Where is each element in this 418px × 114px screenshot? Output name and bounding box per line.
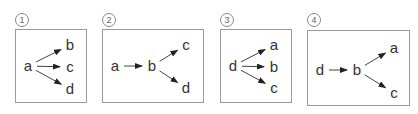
node-c: c <box>182 36 190 53</box>
node-c: c <box>66 58 74 75</box>
node-c: c <box>390 84 398 101</box>
node-d: d <box>229 57 237 74</box>
arrow-d-to-c <box>241 70 265 83</box>
arrow-a-to-c <box>37 66 60 67</box>
arrow-b-to-c <box>365 75 386 88</box>
node-a: a <box>111 57 120 74</box>
node-d: d <box>316 61 324 78</box>
node-b: b <box>353 61 361 78</box>
arrow-a-to-d <box>36 70 61 84</box>
node-d: d <box>182 79 190 96</box>
arrow-d-to-a <box>241 50 265 62</box>
arrows <box>36 49 386 87</box>
node-b: b <box>66 36 74 53</box>
diagram-canvas: abcdabcddabcdbac <box>0 0 418 114</box>
node-b: b <box>148 57 156 74</box>
node-a: a <box>270 36 279 53</box>
node-d: d <box>66 80 74 97</box>
node-b: b <box>270 58 278 75</box>
arrow-b-to-c <box>160 50 178 61</box>
arrow-b-to-a <box>365 53 386 65</box>
node-a: a <box>390 39 399 56</box>
node-a: a <box>24 57 33 74</box>
arrow-b-to-d <box>160 71 178 83</box>
node-c: c <box>270 79 278 96</box>
node-labels: abcdabcddabcdbac <box>24 36 399 101</box>
arrow-d-to-b <box>242 66 264 67</box>
arrow-a-to-b <box>36 49 61 62</box>
